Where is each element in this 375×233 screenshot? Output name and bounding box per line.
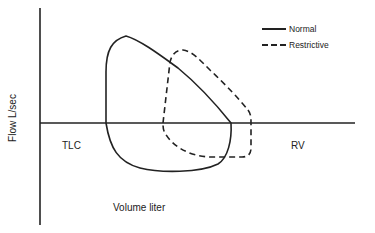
legend-item-normal: Normal (262, 24, 316, 34)
normal-loop (106, 36, 231, 171)
flow-volume-diagram (0, 0, 375, 233)
legend-label: Normal (289, 24, 316, 34)
y-axis-label: Flow L/sec (7, 94, 18, 142)
rv-label: RV (291, 140, 305, 151)
solid-line-icon (262, 28, 286, 30)
legend-label: Restrictive (289, 40, 329, 50)
legend-item-restrictive: Restrictive (262, 40, 329, 50)
dashed-line-icon (262, 44, 286, 46)
x-axis-label: Volume liter (113, 202, 165, 213)
tlc-label: TLC (62, 140, 81, 151)
